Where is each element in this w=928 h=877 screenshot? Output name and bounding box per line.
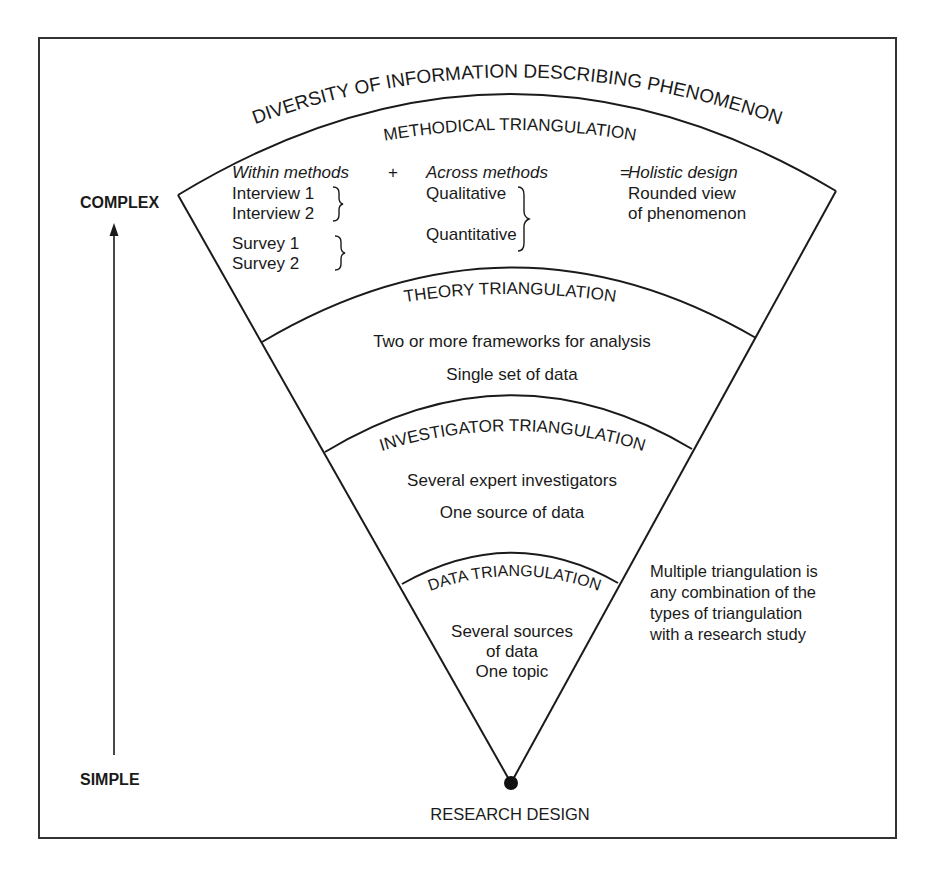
theory-arc bbox=[262, 267, 756, 342]
across-methods-header: Across methods bbox=[425, 163, 548, 182]
within-item-survey-2: Survey 2 bbox=[232, 254, 299, 273]
data-line-2: of data bbox=[486, 642, 539, 661]
figure-frame bbox=[39, 38, 896, 838]
investigator-line-1: Several expert investigators bbox=[407, 471, 617, 490]
across-item-quantitative: Quantitative bbox=[426, 225, 517, 244]
side-note-line-4: with a research study bbox=[649, 625, 807, 643]
theory-title: THEORY TRIANGULATION bbox=[403, 279, 618, 306]
simple-label: SIMPLE bbox=[80, 771, 140, 788]
complex-label: COMPLEX bbox=[80, 194, 159, 211]
theory-line-1: Two or more frameworks for analysis bbox=[373, 332, 651, 351]
research-design-label: RESEARCH DESIGN bbox=[430, 805, 590, 823]
data-title: DATA TRIANGULATION bbox=[426, 562, 604, 594]
within-item-interview-2: Interview 2 bbox=[232, 204, 314, 223]
holistic-line-2: of phenomenon bbox=[628, 204, 746, 223]
brace-interviews bbox=[333, 187, 343, 221]
investigator-line-2: One source of data bbox=[440, 503, 585, 522]
data-line-1: Several sources bbox=[451, 622, 573, 641]
triangulation-diagram: DIVERSITY OF INFORMATION DESCRIBING PHEN… bbox=[0, 0, 928, 877]
side-note-line-3: types of triangulation bbox=[650, 604, 802, 622]
plus-sign: + bbox=[388, 163, 398, 182]
theory-line-2: Single set of data bbox=[446, 365, 578, 384]
data-line-3: One topic bbox=[476, 662, 549, 681]
research-design-point bbox=[504, 776, 518, 790]
methodical-title: METHODICAL TRIANGULATION bbox=[382, 115, 638, 145]
holistic-line-1: Rounded view bbox=[628, 184, 736, 203]
investigator-title: INVESTIGATOR TRIANGULATION bbox=[377, 416, 648, 455]
brace-across-methods bbox=[518, 187, 529, 251]
holistic-design-header: Holistic design bbox=[628, 163, 738, 182]
across-item-qualitative: Qualitative bbox=[426, 184, 506, 203]
side-note-line-1: Multiple triangulation is bbox=[650, 562, 818, 580]
arrow-up-icon bbox=[110, 223, 119, 236]
brace-surveys bbox=[335, 236, 345, 270]
within-item-interview-1: Interview 1 bbox=[232, 184, 314, 203]
within-item-survey-1: Survey 1 bbox=[232, 234, 299, 253]
within-methods-header: Within methods bbox=[232, 163, 350, 182]
side-note-line-2: any combination of the bbox=[650, 583, 816, 601]
